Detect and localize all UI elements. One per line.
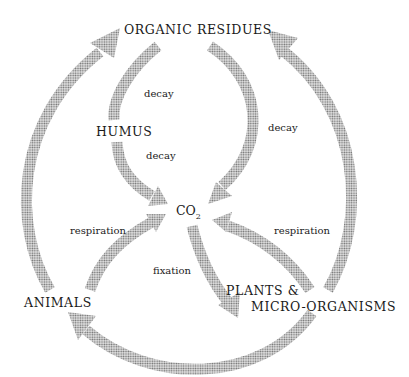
node-plants-line1: PLANTS & xyxy=(226,283,299,298)
node-co2: CO2 xyxy=(176,203,201,221)
arrows-layer xyxy=(0,0,409,377)
label-decay-residues-co2: decay xyxy=(268,122,298,133)
label-respiration-plants: respiration xyxy=(274,225,330,236)
node-humus: HUMUS xyxy=(96,124,152,139)
arrow-plants-to-animals xyxy=(68,312,312,369)
carbon-cycle-diagram: ORGANIC RESIDUES HUMUS CO2 ANIMALS PLANT… xyxy=(0,0,409,377)
label-decay-humus-co2: decay xyxy=(146,150,176,161)
label-respiration-animals: respiration xyxy=(70,225,126,236)
arrow-co2-to-plants xyxy=(192,226,240,318)
node-animals: ANIMALS xyxy=(24,295,92,310)
arrow-residues-to-co2 xyxy=(208,46,253,204)
arrow-residues-to-humus xyxy=(114,46,158,120)
label-fixation: fixation xyxy=(153,265,191,276)
arrow-plants-to-co2 xyxy=(212,212,310,290)
label-decay-residues-humus: decay xyxy=(144,88,174,99)
node-organic-residues: ORGANIC RESIDUES xyxy=(124,22,272,37)
arrow-animals-to-residues xyxy=(26,28,120,290)
node-plants-line2: MICRO-ORGANISMS xyxy=(251,299,396,314)
